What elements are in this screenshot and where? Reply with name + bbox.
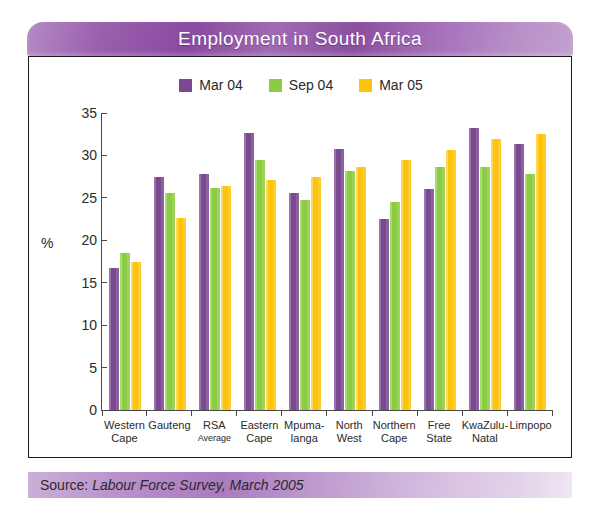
bar[interactable]	[165, 193, 175, 410]
x-axis-label: KwaZulu-Natal	[462, 419, 508, 445]
bar[interactable]	[244, 133, 254, 410]
bar[interactable]	[255, 160, 265, 410]
y-tick-label: 5	[71, 360, 97, 376]
chart-frame: Mar 04 Sep 04 Mar 05 % 05101520253035 We…	[28, 56, 572, 458]
x-axis-label-line1: Eastern	[240, 419, 278, 431]
x-axis-label-line2: West	[327, 432, 372, 445]
x-axis-label-line2: Cape	[102, 432, 147, 445]
x-axis-label: WesternCape	[102, 419, 147, 445]
plot-area: % 05101520253035 WesternCapeGautengRSAAv…	[29, 57, 573, 459]
y-tick-label: 0	[71, 402, 97, 418]
x-axis-label-line2: State	[417, 432, 462, 445]
x-axis-label-line1: Mpuma-	[284, 419, 324, 431]
x-axis-label: Limpopo	[508, 419, 553, 445]
bar[interactable]	[401, 160, 411, 410]
bar[interactable]	[221, 186, 231, 410]
x-tick	[508, 410, 553, 416]
x-axis-label: Mpuma-langa	[282, 419, 327, 445]
bar-group	[463, 113, 508, 410]
y-tick-label: 15	[71, 275, 97, 291]
bar[interactable]	[154, 177, 164, 410]
bar-group	[102, 113, 147, 410]
x-tick	[418, 410, 463, 416]
x-axis-label: Gauteng	[147, 419, 192, 445]
chart-page: Employment in South Africa Mar 04 Sep 04…	[0, 0, 600, 518]
y-tick-label: 35	[71, 105, 97, 121]
x-axis-label-line2: Cape	[372, 432, 417, 445]
bar[interactable]	[514, 144, 524, 411]
x-axis-label-line2: Average	[192, 432, 237, 445]
bar[interactable]	[345, 171, 355, 410]
bar[interactable]	[491, 139, 501, 410]
x-axis-label: EasternCape	[237, 419, 282, 445]
source-detail: Labour Force Survey, March 2005	[92, 477, 303, 493]
x-axis-label-line1: Free	[428, 419, 451, 431]
x-axis-label: NorthernCape	[372, 419, 417, 445]
x-axis-label: RSAAverage	[192, 419, 237, 445]
x-tick	[373, 410, 418, 416]
bar[interactable]	[311, 177, 321, 410]
bar-group	[373, 113, 418, 410]
bar[interactable]	[210, 188, 220, 410]
bar[interactable]	[176, 218, 186, 410]
source-prefix: Source:	[40, 477, 88, 493]
bar[interactable]	[266, 180, 276, 410]
x-axis-label-line1: KwaZulu-	[462, 419, 508, 431]
x-axis-ticks	[102, 410, 553, 416]
source-text: Source: Labour Force Survey, March 2005	[28, 477, 304, 493]
bar[interactable]	[536, 134, 546, 410]
bar[interactable]	[356, 167, 366, 411]
bar[interactable]	[199, 174, 209, 410]
x-axis-label-line2: Cape	[237, 432, 282, 445]
x-axis-label-line1: North	[336, 419, 363, 431]
bar-group	[237, 113, 282, 410]
bar[interactable]	[424, 189, 434, 411]
source-banner: Source: Labour Force Survey, March 2005	[28, 472, 572, 498]
x-tick	[463, 410, 508, 416]
title-banner: Employment in South Africa	[27, 22, 573, 56]
bar[interactable]	[334, 149, 344, 410]
bar-group	[192, 113, 237, 410]
y-tick-label: 25	[71, 190, 97, 206]
bar-groups	[102, 113, 553, 410]
bar[interactable]	[390, 202, 400, 410]
x-tick	[147, 410, 192, 416]
y-tick-label: 30	[71, 147, 97, 163]
x-axis-label: NorthWest	[327, 419, 372, 445]
x-tick	[282, 410, 327, 416]
bar[interactable]	[109, 268, 119, 410]
bar[interactable]	[469, 128, 479, 410]
bar[interactable]	[289, 193, 299, 410]
x-tick	[102, 410, 147, 416]
x-tick	[327, 410, 372, 416]
bar[interactable]	[300, 200, 310, 410]
bar[interactable]	[480, 167, 490, 411]
x-axis-label-line1: Limpopo	[509, 419, 551, 431]
y-tick-label: 10	[71, 317, 97, 333]
x-axis-label-line1: Gauteng	[148, 419, 190, 431]
bar[interactable]	[131, 262, 141, 411]
y-axis-label: %	[41, 235, 53, 251]
x-axis-label-line1: Northern	[373, 419, 416, 431]
bar-group	[147, 113, 192, 410]
bar[interactable]	[379, 219, 389, 410]
x-tick	[192, 410, 237, 416]
x-axis-label: FreeState	[417, 419, 462, 445]
bar[interactable]	[446, 150, 456, 410]
bar[interactable]	[435, 167, 445, 411]
x-axis-label-line1: RSA	[203, 419, 226, 431]
x-axis-label-line2: Natal	[462, 432, 508, 445]
x-axis-label-line1: Western	[104, 419, 145, 431]
bar-group	[418, 113, 463, 410]
bar[interactable]	[525, 174, 535, 410]
page-title: Employment in South Africa	[178, 28, 422, 50]
bar-group	[282, 113, 327, 410]
bar-group	[327, 113, 372, 410]
bar-group	[508, 113, 553, 410]
bar[interactable]	[120, 253, 130, 410]
x-axis-label-line2: langa	[282, 432, 327, 445]
x-tick	[237, 410, 282, 416]
x-axis-labels: WesternCapeGautengRSAAverageEasternCapeM…	[102, 419, 553, 445]
y-tick-label: 20	[71, 232, 97, 248]
